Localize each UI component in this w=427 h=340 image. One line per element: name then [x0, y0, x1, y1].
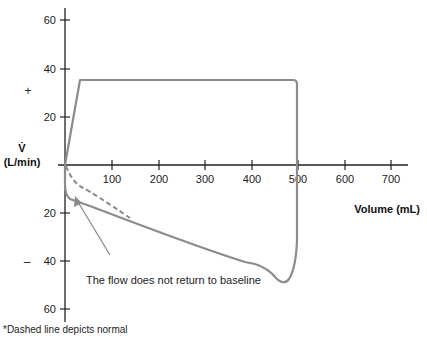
annotation-text: The flow does not return to baseline [86, 274, 261, 286]
x-tick-labels: 100 200 300 400 500 600 700 [103, 173, 400, 185]
footnote: *Dashed line depicts normal [3, 324, 128, 335]
y-axis-symbol: V̇ [18, 142, 26, 154]
y-axis-units: (L/min) [4, 156, 41, 168]
svg-text:700: 700 [382, 173, 400, 185]
flow-volume-loop [65, 80, 297, 282]
arrowhead-icon [74, 196, 82, 207]
svg-text:200: 200 [150, 173, 168, 185]
x-axis-title: Volume (mL) [354, 203, 420, 215]
svg-text:60: 60 [44, 303, 56, 315]
y-tick-labels: 60 40 20 20 40 60 [44, 14, 56, 315]
svg-text:400: 400 [243, 173, 261, 185]
svg-text:20: 20 [44, 207, 56, 219]
svg-text:20: 20 [44, 111, 56, 123]
svg-text:60: 60 [44, 14, 56, 26]
annotation-arrow [74, 196, 110, 255]
positive-sign: + [24, 84, 31, 98]
svg-text:300: 300 [196, 173, 214, 185]
svg-text:40: 40 [44, 255, 56, 267]
svg-text:600: 600 [336, 173, 354, 185]
svg-text:100: 100 [103, 173, 121, 185]
flow-volume-loop-chart: 60 40 20 20 40 60 100 200 300 400 500 60… [0, 0, 427, 340]
svg-text:40: 40 [44, 63, 56, 75]
negative-sign: – [24, 255, 31, 269]
